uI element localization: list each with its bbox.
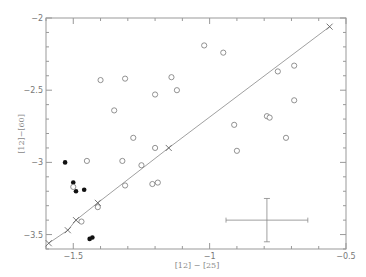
cross-marker <box>73 217 79 223</box>
open-point <box>120 158 125 163</box>
open-point <box>71 184 76 189</box>
open-point <box>150 181 155 186</box>
filled-point <box>82 188 87 193</box>
open-point <box>152 92 157 97</box>
open-point <box>267 115 272 120</box>
open-point <box>221 50 226 55</box>
open-point <box>98 77 103 82</box>
scatter-chart: −1.5−1−0.5−2−2.5−3−3.5 [12] − [25] [12]−… <box>0 0 366 277</box>
open-point <box>234 148 239 153</box>
error-bar <box>226 198 308 241</box>
open-point <box>202 43 207 48</box>
filled-point <box>90 235 95 240</box>
open-point <box>283 135 288 140</box>
y-tick-label: −2 <box>31 14 43 23</box>
cross-marker <box>46 240 52 246</box>
y-tick-label: −2.5 <box>24 86 43 95</box>
open-point <box>84 158 89 163</box>
open-point <box>79 219 84 224</box>
open-point <box>292 63 297 68</box>
x-axis-label: [12] − [25] <box>175 261 220 270</box>
cross-marker <box>166 145 172 151</box>
open-point <box>122 76 127 81</box>
open-point <box>122 183 127 188</box>
axis-ticks <box>46 18 346 249</box>
filled-point <box>63 160 68 165</box>
open-point <box>95 205 100 210</box>
open-point <box>152 145 157 150</box>
open-point <box>112 108 117 113</box>
open-point <box>174 88 179 93</box>
open-point <box>155 180 160 185</box>
x-tick-label: −1.5 <box>64 252 83 261</box>
x-tick-label: −1 <box>204 252 216 261</box>
plot-border <box>46 18 346 249</box>
cross-marker <box>327 24 333 30</box>
open-point <box>169 75 174 80</box>
cross-marker <box>65 227 71 233</box>
open-point <box>232 122 237 127</box>
y-tick-label: −3 <box>31 158 43 167</box>
y-tick-label: −3.5 <box>24 231 43 240</box>
x-tick-label: −0.5 <box>336 252 355 261</box>
open-point <box>131 135 136 140</box>
open-point <box>139 163 144 168</box>
plot-frame <box>46 18 346 249</box>
y-axis-label: [12]−[60] <box>17 114 26 154</box>
open-point <box>275 69 280 74</box>
model-line-path <box>49 27 330 244</box>
open-point <box>292 98 297 103</box>
model-line <box>49 27 330 244</box>
